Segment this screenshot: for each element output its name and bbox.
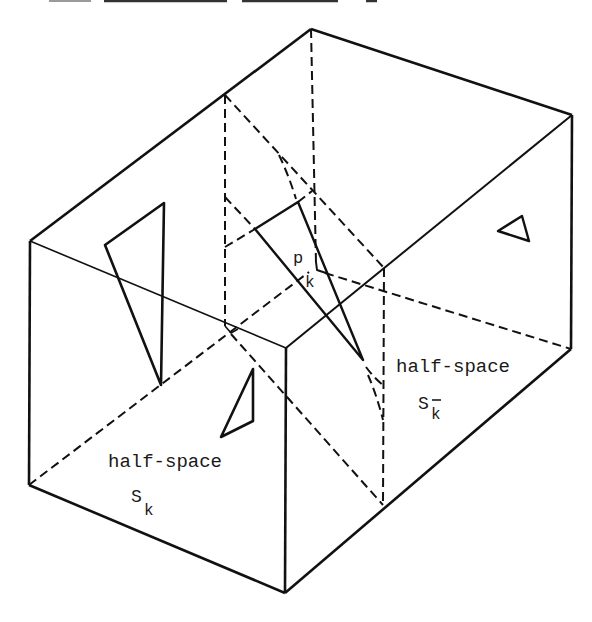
polygon-label-symbol: p [293,249,303,268]
left-half-space-symbol: S [131,487,142,507]
half-space-partition-diagram: p k half-space S k half-space S k [0,0,592,622]
polygon-label-subscript: k [305,274,315,292]
diagram-canvas: p k half-space S k half-space S k [0,0,592,622]
right-half-space-text: half-space [396,356,510,378]
box-edge-front-vertical [285,348,286,593]
left-half-space-subscript: k [144,502,154,520]
box-edge-right-vertical [571,115,572,349]
left-half-space-text: half-space [108,451,222,473]
right-half-space-subscript: k [431,406,441,424]
box-edge-left-vertical [29,241,30,485]
cutting-plane-right-vertical [383,268,384,505]
right-half-space-symbol: S [418,394,429,414]
